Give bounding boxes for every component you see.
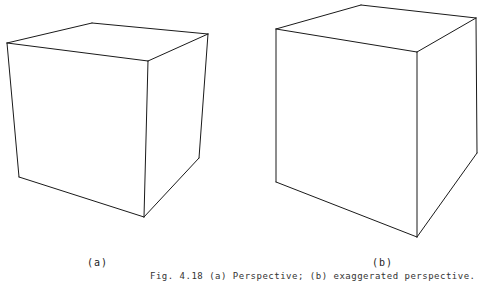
cube-edge — [7, 43, 19, 177]
cube-b-exaggerated-perspective — [276, 5, 477, 237]
panel-a-label: (a) — [87, 257, 108, 268]
cube-edge — [417, 18, 476, 52]
cube-edge — [276, 29, 417, 52]
panel-b-label: (b) — [372, 257, 393, 268]
cube-a-perspective — [7, 23, 208, 217]
cube-edge — [92, 23, 208, 34]
cube-edge — [199, 34, 208, 158]
cube-edge — [476, 18, 477, 153]
cube-edge — [144, 61, 148, 217]
cube-edge — [417, 153, 477, 237]
cube-edge — [148, 34, 208, 61]
cube-edge — [144, 158, 199, 217]
cube-edge — [19, 177, 144, 217]
cube-edge — [361, 5, 476, 18]
cube-edge — [7, 23, 92, 43]
cube-edge — [276, 182, 417, 237]
figure-caption: Fig. 4.18 (a) Perspective; (b) exaggerat… — [150, 271, 476, 281]
figure-canvas — [0, 0, 485, 282]
cube-edge — [276, 5, 361, 29]
cube-edge — [7, 43, 148, 61]
